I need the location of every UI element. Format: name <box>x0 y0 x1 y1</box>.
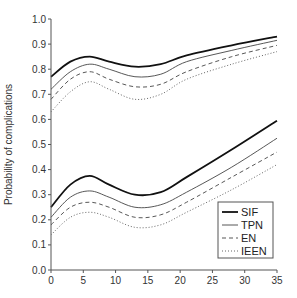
y-tick-label: 0.9 <box>32 39 46 50</box>
x-tick-label: 30 <box>239 275 251 286</box>
y-tick-label: 0.4 <box>32 164 46 175</box>
x-tick-label: 20 <box>175 275 187 286</box>
x-tick-label: 10 <box>110 275 122 286</box>
series-line-en-upper <box>51 45 277 99</box>
y-tick-label: 0.1 <box>32 239 46 250</box>
y-tick-label: 0.6 <box>32 114 46 125</box>
y-tick-label: 0.7 <box>32 89 46 100</box>
y-tick-label: 0.3 <box>32 189 46 200</box>
y-tick-label: 0.0 <box>32 265 46 276</box>
x-tick-label: 15 <box>142 275 154 286</box>
legend: SIFTPNENIEEN <box>218 202 273 258</box>
line-chart: 0.00.10.20.30.40.50.60.70.80.91.0 051015… <box>0 0 297 298</box>
legend-label-sif: SIF <box>241 206 258 218</box>
y-tick-label: 0.5 <box>32 139 46 150</box>
x-tick-label: 5 <box>81 275 87 286</box>
y-axis-label: Probability of complications <box>3 84 14 205</box>
series-line-sif-lower <box>51 121 277 208</box>
y-tick-label: 0.2 <box>32 214 46 225</box>
series-line-ieen-upper <box>51 52 277 112</box>
x-tick-label: 25 <box>207 275 219 286</box>
x-tick-label: 35 <box>271 275 283 286</box>
y-tick-label: 0.8 <box>32 64 46 75</box>
series-line-tpn-upper <box>51 40 277 89</box>
y-ticks: 0.00.10.20.30.40.50.60.70.80.91.0 <box>32 14 51 276</box>
legend-label-ieen: IEEN <box>241 245 267 257</box>
series-line-sif-upper <box>51 37 277 77</box>
y-tick-label: 1.0 <box>32 14 46 25</box>
x-tick-label: 0 <box>48 275 54 286</box>
legend-label-tpn: TPN <box>241 219 263 231</box>
x-ticks: 05101520253035 <box>48 270 283 286</box>
legend-label-en: EN <box>241 232 256 244</box>
